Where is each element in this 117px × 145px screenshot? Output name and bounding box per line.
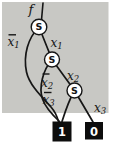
s-node-1: S (31, 19, 47, 35)
x3-sub: 3 (101, 106, 106, 116)
x3-neg-sub: 3 (49, 98, 54, 108)
x1-neg-sub: 1 (14, 40, 19, 50)
x2-sub: 2 (73, 74, 79, 84)
x1-sub: 1 (57, 41, 62, 51)
terminal-0: 0 (85, 122, 103, 140)
s-node-3: S (67, 83, 82, 98)
terminal-1-digit: 1 (58, 125, 66, 139)
diagram-canvas: S S S f x1 x1 x2 x2 (0, 0, 117, 145)
x2-neg-sub: 2 (47, 81, 53, 91)
s-node-3-label: S (71, 85, 78, 96)
s-node-1-label: S (36, 21, 43, 32)
shannon-expansion-diagram: S S S f x1 x1 x2 x2 (0, 0, 117, 145)
terminal-1: 1 (53, 122, 72, 142)
terminal-0-digit: 0 (90, 125, 98, 139)
s-node-2-label: S (49, 54, 56, 65)
s-node-2: S (45, 52, 60, 67)
